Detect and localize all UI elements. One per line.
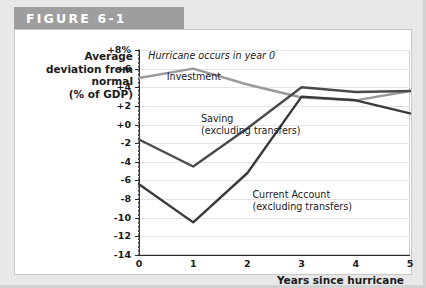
y-tick-label: +6 (91, 63, 131, 74)
y-tick-label: -8 (91, 193, 131, 204)
figure-root: FIGURE 6-1 Average deviation from normal… (0, 0, 426, 288)
series-annotation-label: Hurricane occurs in year 0 (148, 50, 275, 62)
x-tick-label: 4 (344, 258, 368, 269)
plot-area: +8%+6+4+2+0-2-4-6-8-10-12-14 012345 Hurr… (139, 50, 410, 255)
y-tick-label: +8% (91, 44, 131, 55)
y-tick-label: -6 (91, 174, 131, 185)
y-tick-label: +2 (91, 100, 131, 111)
y-tick-label: +0 (91, 119, 131, 130)
figure-panel: Average deviation from normal (% of GDP)… (14, 29, 412, 275)
y-axis-title: Average deviation from normal (% of GDP) (33, 50, 133, 100)
series-annotation-label: Investment (167, 71, 221, 83)
y-tick-label: -2 (91, 137, 131, 148)
x-axis-caption: Years since hurricane (277, 274, 404, 286)
x-tick-label: 0 (127, 258, 151, 269)
series-annotation-label: (excluding transfers) (252, 201, 352, 213)
y-tick-label: -12 (91, 230, 131, 241)
figure-header-bar: FIGURE 6-1 (14, 7, 184, 29)
x-tick-label: 2 (235, 258, 259, 269)
series-annotation-label: Current Account (252, 189, 330, 201)
y-tick-label: +4 (91, 81, 131, 92)
x-tick-label: 3 (290, 258, 314, 269)
series-annotation-label: Saving (201, 113, 233, 125)
y-tick-label: -14 (91, 249, 131, 260)
y-tick-label: -10 (91, 212, 131, 223)
x-tick-label: 1 (181, 258, 205, 269)
x-tick-label: 5 (398, 258, 422, 269)
figure-number-label: FIGURE 6-1 (14, 11, 127, 26)
series-annotation-label: (excluding transfers) (201, 125, 301, 137)
y-tick-label: -4 (91, 156, 131, 167)
